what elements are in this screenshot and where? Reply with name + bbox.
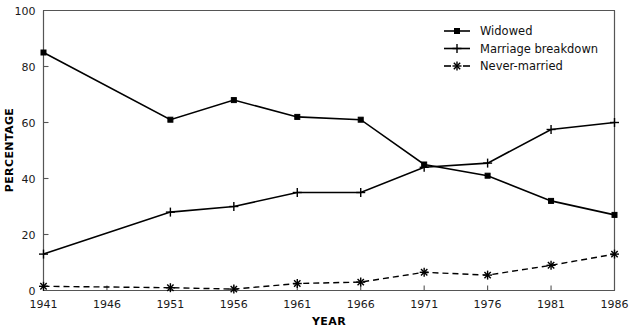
chart-container: 020406080100 194119461951195619611966197… [0,0,630,332]
marker-square [358,117,363,122]
y-axis-title: PERCENTAGE [3,108,16,193]
legend-label: Widowed [480,24,532,38]
x-tick-label: 1956 [220,298,248,311]
x-tick-label: 1951 [156,298,184,311]
x-tick-label: 1986 [601,298,629,311]
x-tick-label: 1946 [93,298,121,311]
x-axis-title: YEAR [311,315,346,328]
line-chart: 020406080100 194119461951195619611966197… [0,0,630,332]
series-marriage-breakdown [39,118,619,259]
marker-square [295,114,300,119]
legend-item-marriage-breakdown[interactable]: Marriage breakdown [444,42,598,56]
legend-item-never-married[interactable]: Never-married [444,59,563,73]
marker-square [455,29,460,34]
y-tick-label: 100 [15,5,36,18]
series-path [44,254,615,289]
chart-legend: WidowedMarriage breakdownNever-married [444,24,598,73]
marker-square [549,198,554,203]
x-tick-label: 1976 [474,298,502,311]
legend-label: Never-married [480,59,563,73]
marker-square [485,173,490,178]
x-tick-label: 1971 [410,298,438,311]
y-tick-label: 0 [29,285,36,298]
legend-item-widowed[interactable]: Widowed [444,24,532,38]
series-path [44,53,615,215]
series-layer [39,50,619,294]
marker-square [41,50,46,55]
x-tick-label: 1941 [30,298,58,311]
x-axis-ticks: 1941194619511956196119661971197619811986 [30,286,629,311]
legend-label: Marriage breakdown [480,42,598,56]
y-tick-label: 20 [22,229,36,242]
x-tick-label: 1981 [537,298,565,311]
x-tick-label: 1961 [283,298,311,311]
y-tick-label: 40 [22,173,36,186]
series-path [44,123,615,255]
marker-square [168,117,173,122]
series-never-married [39,250,619,294]
y-tick-label: 80 [22,61,36,74]
marker-square [612,212,617,217]
marker-square [231,98,236,103]
x-tick-label: 1966 [347,298,375,311]
y-tick-label: 60 [22,117,36,130]
